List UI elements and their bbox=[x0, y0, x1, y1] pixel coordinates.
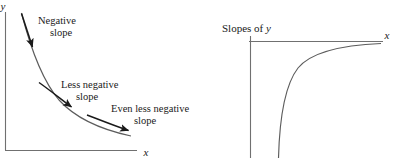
annotation-negative-slope-line2: slope bbox=[50, 27, 73, 38]
right-panel-title-variable: y bbox=[265, 22, 271, 34]
right-x-axis-label: x bbox=[384, 29, 390, 41]
annotation-even-less-negative-slope-line2: slope bbox=[134, 115, 157, 126]
two-panel-calculus-figure: y x Negative slope Less negative slope E… bbox=[0, 0, 394, 166]
annotation-less-negative-slope-line1: Less negative bbox=[61, 79, 119, 90]
right-panel-title-prefix: Slopes of bbox=[222, 22, 266, 34]
annotation-less-negative-slope-line2: slope bbox=[76, 91, 99, 102]
left-y-axis-label: y bbox=[0, 0, 6, 12]
annotation-even-less-negative-slope-line1: Even less negative bbox=[111, 103, 189, 114]
left-x-axis-label: x bbox=[143, 146, 149, 158]
right-panel-title: Slopes of y bbox=[222, 22, 271, 34]
annotation-negative-slope-line1: Negative bbox=[38, 15, 76, 26]
